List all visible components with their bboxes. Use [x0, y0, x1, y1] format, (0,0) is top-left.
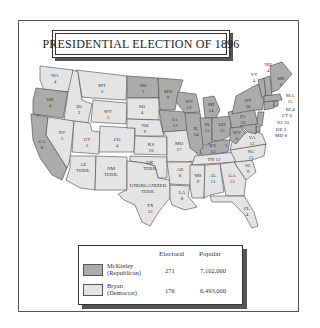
electoral-votes: 176 [165, 287, 175, 294]
svg-text:MD 8: MD 8 [275, 133, 287, 138]
state-nj [257, 112, 264, 126]
svg-text:36: 36 [246, 104, 252, 109]
svg-text:NM: NM [107, 166, 116, 171]
state-ri [274, 101, 278, 107]
svg-text:KY: KY [209, 143, 217, 148]
svg-text:CT 6: CT 6 [282, 113, 293, 118]
svg-text:15: 15 [288, 99, 294, 104]
svg-text:ME: ME [277, 76, 285, 81]
legend-candidate: McKinley (Republican) [107, 262, 141, 276]
svg-text:NJ 10: NJ 10 [277, 120, 289, 125]
svg-text:15: 15 [205, 128, 211, 133]
democrat-swatch [83, 284, 103, 296]
state-fl [210, 196, 258, 228]
svg-text:15: 15 [148, 209, 154, 214]
svg-text:12: 12 [211, 149, 217, 154]
svg-text:SC: SC [245, 163, 252, 168]
svg-text:TN 12: TN 12 [208, 157, 221, 162]
svg-text:CO: CO [114, 137, 121, 142]
svg-text:NY: NY [244, 98, 252, 103]
svg-text:TX: TX [147, 203, 154, 208]
svg-text:4: 4 [267, 68, 270, 73]
svg-text:CA: CA [39, 139, 46, 144]
legend-row-democrat: Bryan (Democrat) 176 6,493,000 [83, 282, 238, 300]
svg-text:WA: WA [51, 73, 59, 78]
candidate-party: (Republican) [107, 269, 141, 276]
svg-text:TERR.: TERR. [76, 168, 90, 173]
candidate-name: McKinley [107, 262, 141, 269]
legend-candidate: Bryan (Democrat) [107, 282, 137, 296]
svg-text:MA: MA [286, 93, 294, 98]
svg-text:FL: FL [244, 206, 250, 211]
popular-votes: 7,102,000 [200, 267, 226, 274]
svg-text:IA: IA [172, 117, 178, 122]
republican-swatch [83, 264, 103, 276]
candidate-name: Bryan [107, 282, 137, 289]
svg-text:TERR.: TERR. [141, 189, 155, 194]
svg-text:14: 14 [209, 108, 215, 113]
svg-text:OH: OH [218, 122, 226, 127]
svg-text:RI 4: RI 4 [286, 107, 295, 112]
svg-text:TERR.: TERR. [104, 172, 118, 177]
svg-text:23: 23 [220, 128, 226, 133]
svg-text:10: 10 [149, 148, 155, 153]
svg-text:MI: MI [208, 102, 214, 107]
title-box: PRESIDENTIAL ELECTION OF 1896 [52, 30, 230, 58]
svg-text:32: 32 [241, 120, 247, 125]
svg-text:IL: IL [194, 126, 199, 131]
popular-votes: 6,493,000 [200, 287, 226, 294]
svg-text:VA: VA [249, 135, 256, 140]
svg-text:ID: ID [76, 104, 82, 109]
svg-text:NH: NH [264, 62, 272, 67]
svg-text:AZ: AZ [80, 162, 87, 167]
state-wa [40, 66, 73, 92]
state-ct [264, 101, 274, 110]
svg-text:MN: MN [164, 89, 172, 94]
legend-row-republican: McKinley (Republican) 271 7,102,000 [83, 262, 238, 280]
svg-text:NB: NB [142, 123, 150, 128]
svg-text:MS: MS [194, 173, 201, 178]
electoral-votes: 271 [165, 267, 175, 274]
svg-text:WY: WY [104, 109, 113, 114]
map-title: PRESIDENTIAL ELECTION OF 1896 [43, 37, 240, 52]
svg-text:IN: IN [204, 122, 210, 127]
svg-text:VT: VT [251, 72, 258, 77]
svg-text:24: 24 [194, 132, 200, 137]
svg-text:ND: ND [139, 83, 147, 88]
svg-text:AR: AR [177, 167, 185, 172]
svg-text:OK: OK [146, 160, 154, 165]
svg-text:17: 17 [177, 147, 183, 152]
state-de [256, 126, 260, 132]
svg-text:SD: SD [139, 104, 146, 109]
svg-text:NV: NV [58, 130, 66, 135]
svg-text:13: 13 [230, 179, 236, 184]
svg-text:12: 12 [250, 141, 256, 146]
legend-header-electoral: Electoral [159, 250, 184, 258]
svg-text:NC: NC [248, 149, 256, 154]
svg-text:11: 11 [249, 155, 254, 160]
legend: Electoral Popular McKinley (Republican) … [78, 245, 243, 305]
candidate-party: (Democrat) [107, 289, 137, 296]
svg-text:PA: PA [240, 114, 246, 119]
svg-text:AL: AL [210, 173, 217, 178]
svg-text:UT: UT [84, 137, 91, 142]
legend-header-popular: Popular [199, 250, 221, 258]
svg-text:WV: WV [233, 130, 242, 135]
svg-text:TERR.: TERR. [143, 166, 157, 171]
svg-text:11: 11 [211, 179, 216, 184]
state-mi [203, 96, 220, 118]
svg-text:UNORGANIZED: UNORGANIZED [130, 183, 167, 188]
svg-text:WS: WS [185, 99, 193, 104]
svg-text:GA: GA [228, 173, 236, 178]
svg-text:12: 12 [187, 105, 193, 110]
svg-text:DE 3: DE 3 [276, 127, 287, 132]
svg-text:4: 4 [253, 78, 256, 83]
state-sd [127, 98, 159, 120]
svg-text:13: 13 [173, 123, 179, 128]
svg-text:MO: MO [175, 141, 183, 146]
svg-text:MT: MT [98, 83, 106, 88]
svg-text:LA: LA [179, 190, 186, 195]
svg-text:OR: OR [47, 97, 55, 102]
svg-text:KS: KS [148, 142, 155, 147]
